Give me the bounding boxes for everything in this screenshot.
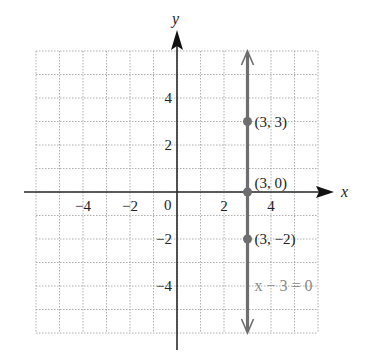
- origin-label: 0: [164, 197, 172, 213]
- x-axis-label: x: [340, 183, 348, 200]
- y-tick-label: −2: [156, 231, 172, 247]
- x-tick-labels: −4−224: [75, 198, 275, 214]
- y-tick-label: −4: [156, 278, 172, 294]
- data-point: [243, 117, 252, 126]
- coordinate-plane: x y 0 −4−224 42−2−4 (3, 3)(3, 0)(3, −2) …: [0, 0, 366, 363]
- plotted-points: (3, 3)(3, 0)(3, −2): [243, 114, 295, 249]
- x-tick-label: −4: [75, 198, 91, 214]
- x-tick-label: 2: [220, 198, 228, 214]
- data-point: [243, 235, 252, 244]
- x-tick-label: 4: [267, 198, 275, 214]
- equation-label: x − 3 = 0: [255, 277, 313, 294]
- x-tick-label: −2: [122, 198, 138, 214]
- y-tick-label: 2: [165, 137, 173, 153]
- y-tick-label: 4: [165, 90, 173, 106]
- data-point: [243, 188, 252, 197]
- annotations: x − 3 = 0: [255, 277, 313, 294]
- axes: x y 0: [24, 10, 348, 350]
- y-axis-label: y: [170, 10, 180, 28]
- point-label: (3, 3): [255, 114, 288, 131]
- point-label: (3, −2): [255, 231, 296, 248]
- point-label: (3, 0): [255, 175, 288, 192]
